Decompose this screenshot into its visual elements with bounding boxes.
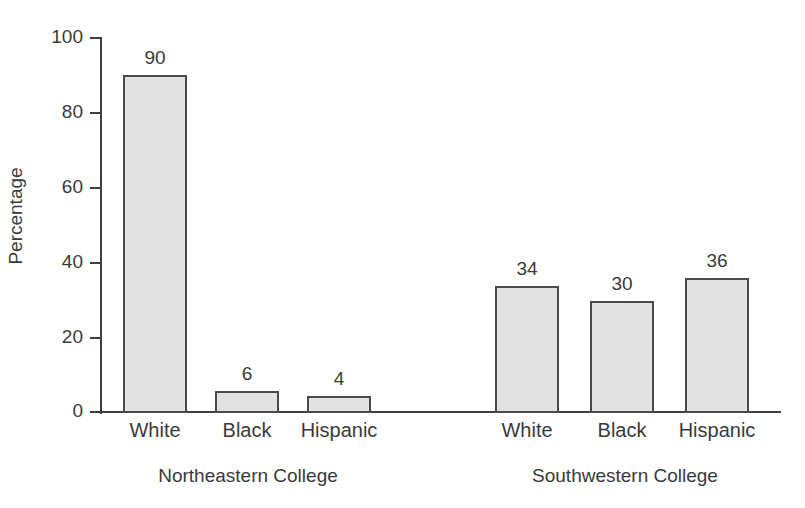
- y-tick-40: 40: [0, 262, 101, 264]
- bar-northeastern-white[interactable]: [123, 75, 187, 413]
- y-tick-label: 20: [37, 327, 83, 346]
- category-label-northeastern-white: White: [113, 419, 197, 441]
- bar-southwestern-black[interactable]: [590, 301, 654, 413]
- y-tick-20: 20: [0, 337, 101, 339]
- y-tick-60: 60: [0, 187, 101, 189]
- bar-value-northeastern-hispanic: 4: [307, 369, 371, 388]
- group-label-northeastern: Northeastern College: [126, 465, 370, 486]
- bar-southwestern-white[interactable]: [495, 286, 559, 413]
- category-label-southwestern-black: Black: [580, 419, 664, 441]
- bar-value-northeastern-white: 90: [123, 48, 187, 67]
- bar-value-northeastern-black: 6: [215, 364, 279, 383]
- bar-value-southwestern-hispanic: 36: [685, 251, 749, 270]
- y-tick-label: 40: [37, 252, 83, 271]
- y-tick-mark: [90, 337, 101, 339]
- y-tick-100: 100: [0, 37, 101, 39]
- y-tick-80: 80: [0, 112, 101, 114]
- category-label-southwestern-hispanic: Hispanic: [667, 419, 767, 441]
- y-tick-label: 100: [37, 27, 83, 46]
- category-label-northeastern-hispanic: Hispanic: [289, 419, 389, 441]
- bar-value-southwestern-black: 30: [590, 274, 654, 293]
- bar-northeastern-black[interactable]: [215, 391, 279, 413]
- y-tick-mark: [90, 112, 101, 114]
- y-axis-line: [100, 37, 102, 414]
- y-tick-mark: [90, 262, 101, 264]
- y-axis-title: Percentage: [6, 146, 26, 286]
- bar-northeastern-hispanic[interactable]: [307, 396, 371, 413]
- y-tick-mark: [90, 187, 101, 189]
- y-tick-label: 0: [37, 401, 83, 420]
- y-tick-mark: [90, 411, 101, 413]
- y-tick-label: 80: [37, 102, 83, 121]
- y-tick-mark: [90, 37, 101, 39]
- bar-southwestern-hispanic[interactable]: [685, 278, 749, 413]
- y-tick-0: 0: [0, 411, 101, 413]
- category-label-northeastern-black: Black: [205, 419, 289, 441]
- group-label-southwestern: Southwestern College: [503, 465, 747, 486]
- category-label-southwestern-white: White: [485, 419, 569, 441]
- x-axis-line: [100, 411, 781, 413]
- y-tick-label: 60: [37, 177, 83, 196]
- bar-value-southwestern-white: 34: [495, 259, 559, 278]
- bar-chart: Percentage 100 80 60 40 20 0 90 6 4 Whit…: [0, 0, 805, 508]
